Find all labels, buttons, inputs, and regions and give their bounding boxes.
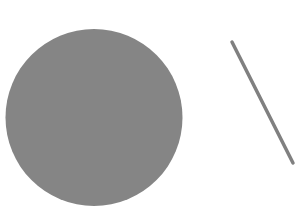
drawing-canvas bbox=[0, 0, 306, 214]
gray-circle bbox=[6, 29, 183, 206]
